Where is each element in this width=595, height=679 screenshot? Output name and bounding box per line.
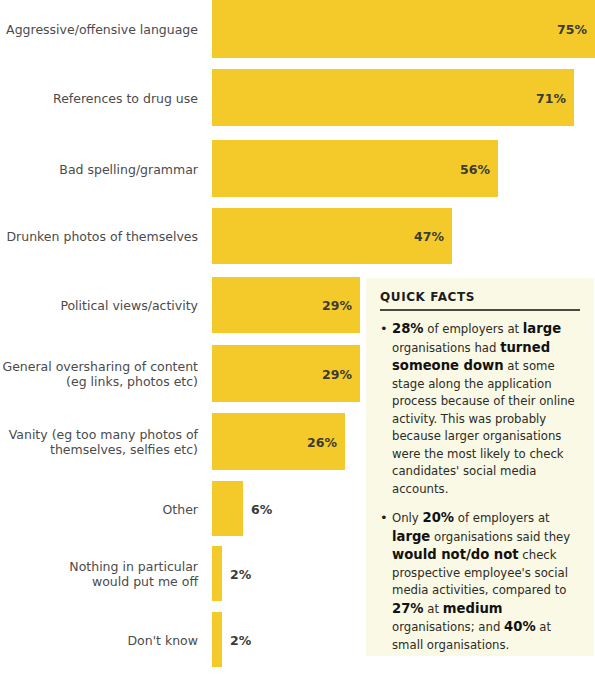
bar-fill xyxy=(212,546,222,601)
quick-facts-title: QUICK FACTS xyxy=(380,290,580,309)
bar-fill: 71% xyxy=(212,69,574,126)
bar-row: References to drug use71% xyxy=(0,69,594,126)
bar-value-label: 2% xyxy=(230,566,251,581)
bar-value-label: 75% xyxy=(557,22,587,37)
bar-value-label: 6% xyxy=(251,501,272,516)
bar-value-label: 29% xyxy=(322,366,352,381)
emphasis-text: large xyxy=(392,529,430,544)
body-text: organisations said they xyxy=(430,530,570,544)
bar-fill: 26% xyxy=(212,413,345,470)
body-text: organisations; and xyxy=(392,620,504,634)
bar-value-label: 29% xyxy=(322,298,352,313)
bar-fill xyxy=(212,481,243,536)
bar-category-label: Political views/activity xyxy=(0,298,198,313)
bullet-icon: • xyxy=(380,320,392,498)
bar-category-label: General oversharing of content (eg links… xyxy=(0,359,198,389)
body-text: of employers at xyxy=(454,511,550,525)
quick-facts-list: •28% of employers at large organisations… xyxy=(380,320,580,654)
bar-fill: 47% xyxy=(212,208,452,264)
bar-row: Drunken photos of themselves47% xyxy=(0,208,594,264)
body-text: at some stage along the application proc… xyxy=(392,359,575,496)
quick-facts-divider xyxy=(380,309,580,311)
bar-fill: 29% xyxy=(212,345,360,402)
quick-fact-text: Only 20% of employers at large organisat… xyxy=(392,509,580,654)
bar-category-label: Don't know xyxy=(0,632,198,647)
bar-category-label: Drunken photos of themselves xyxy=(0,229,198,244)
bar-value-label: 2% xyxy=(230,632,251,647)
emphasis-text: medium xyxy=(443,601,503,616)
emphasis-text: would not/do not xyxy=(392,547,519,562)
emphasis-text: 40% xyxy=(504,619,536,634)
quick-fact-item: •Only 20% of employers at large organisa… xyxy=(380,509,580,654)
bar-value-label: 56% xyxy=(460,161,490,176)
bar-category-label: References to drug use xyxy=(0,90,198,105)
bar-category-label: Vanity (eg too many photos of themselves… xyxy=(0,427,198,457)
bar-value-label: 47% xyxy=(414,229,444,244)
bar-fill: 75% xyxy=(212,0,595,58)
bar-category-label: Bad spelling/grammar xyxy=(0,161,198,176)
bar-row: Bad spelling/grammar56% xyxy=(0,140,594,197)
body-text: at xyxy=(424,602,443,616)
emphasis-text: 28% xyxy=(392,321,424,336)
body-text: Only xyxy=(392,511,423,525)
body-text: of employers at xyxy=(424,322,523,336)
bar-value-label: 26% xyxy=(307,434,337,449)
emphasis-text: 20% xyxy=(423,510,455,525)
body-text: organisations had xyxy=(392,341,500,355)
bar-fill: 29% xyxy=(212,277,360,333)
bar-fill xyxy=(212,612,222,667)
bar-category-label: Other xyxy=(0,501,198,516)
emphasis-text: 27% xyxy=(392,601,424,616)
bar-category-label: Nothing in particular would put me off xyxy=(0,559,198,589)
quick-fact-item: •28% of employers at large organisations… xyxy=(380,320,580,498)
bullet-icon: • xyxy=(380,509,392,654)
quick-facts-panel: QUICK FACTS •28% of employers at large o… xyxy=(366,278,594,656)
bar-fill: 56% xyxy=(212,140,498,197)
emphasis-text: large xyxy=(523,321,561,336)
bar-value-label: 71% xyxy=(536,90,566,105)
bar-category-label: Aggressive/offensive language xyxy=(0,22,198,37)
bar-row: Aggressive/offensive language75% xyxy=(0,0,594,58)
quick-fact-text: 28% of employers at large organisations … xyxy=(392,320,580,498)
